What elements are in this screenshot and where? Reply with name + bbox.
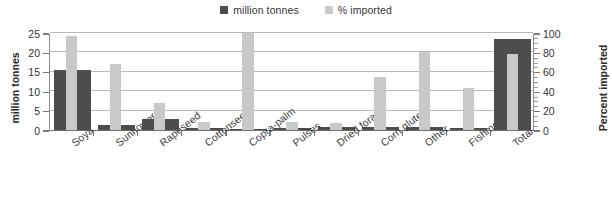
y-axis-left-tick-label: 10 — [14, 87, 40, 98]
legend-entry-percent-imported: % imported — [325, 4, 392, 16]
y-axis-left-tick-label: 5 — [14, 106, 40, 117]
chart-legend: million tonnes % imported — [0, 4, 612, 16]
bar-percent-imported — [419, 52, 430, 130]
y-axis-right-minor-tick — [534, 116, 538, 117]
bar-group — [447, 34, 491, 130]
y-axis-right-minor-tick — [534, 126, 538, 127]
bar-percent-imported — [286, 122, 297, 130]
y-axis-right-minor-tick — [534, 38, 538, 39]
y-axis-right-tick-label: 80 — [543, 48, 569, 59]
y-axis-right-tick-label: 100 — [543, 29, 569, 40]
x-axis-tick — [402, 131, 403, 136]
bar-percent-imported — [330, 123, 341, 130]
legend-label-million-tonnes: million tonnes — [233, 4, 299, 16]
x-axis-tick — [446, 131, 447, 136]
y-axis-right-minor-tick — [534, 101, 538, 102]
y-axis-left-tick — [43, 72, 49, 73]
bar-chart: million tonnes % imported million tonnes… — [0, 0, 612, 201]
bar-percent-imported — [198, 122, 209, 130]
y-axis-left-tick — [43, 92, 49, 93]
bar-percent-imported — [154, 103, 165, 130]
bar-percent-imported — [242, 33, 253, 130]
y-axis-left-tick-label: 0 — [14, 126, 40, 137]
x-axis-tick — [137, 131, 138, 136]
x-axis-tick — [490, 131, 491, 136]
y-axis-left-tick — [43, 33, 49, 34]
bar-group — [94, 34, 138, 130]
y-axis-right-minor-tick — [534, 87, 538, 88]
bar-group — [315, 34, 359, 130]
y-axis-right-minor-tick — [534, 48, 538, 49]
y-axis-right-tick-label: 0 — [543, 126, 569, 137]
y-axis-right-minor-tick — [534, 43, 538, 44]
bar-percent-imported — [463, 88, 474, 130]
x-axis-tick — [358, 131, 359, 136]
y-axis-right-minor-tick — [534, 97, 538, 98]
y-axis-right-tick — [534, 130, 540, 131]
y-axis-right-tick — [534, 111, 540, 112]
y-axis-left-tick-label: 15 — [14, 67, 40, 78]
legend-label-percent-imported: % imported — [338, 4, 392, 16]
y-axis-right-tick-label: 60 — [543, 67, 569, 78]
y-axis-right-tick — [534, 92, 540, 93]
y-axis-right-tick-label: 40 — [543, 87, 569, 98]
bar-group — [50, 34, 94, 130]
legend-entry-million-tonnes: million tonnes — [220, 4, 299, 16]
y-axis-right-minor-tick — [534, 82, 538, 83]
y-axis-right-minor-tick — [534, 106, 538, 107]
y-axis-left-tick — [43, 130, 49, 131]
x-axis-tick — [269, 131, 270, 136]
y-axis-right-tick — [534, 53, 540, 54]
x-axis-tick — [93, 131, 94, 136]
bar-percent-imported — [66, 36, 77, 130]
y-axis-left-tick-label: 20 — [14, 48, 40, 59]
y-axis-right-tick — [534, 72, 540, 73]
x-axis-tick — [225, 131, 226, 136]
bar-percent-imported — [507, 54, 518, 130]
legend-swatch-percent-imported — [325, 6, 333, 14]
y-axis-right-tick-label: 20 — [543, 106, 569, 117]
y-axis-left-tick — [43, 53, 49, 54]
bar-percent-imported — [110, 64, 121, 130]
y-axis-right-minor-tick — [534, 67, 538, 68]
y-axis-right-minor-tick — [534, 63, 538, 64]
y-axis-left-tick-label: 25 — [14, 29, 40, 40]
y-axis-right-minor-tick — [534, 58, 538, 59]
bar-percent-imported — [374, 77, 385, 130]
x-axis-tick — [181, 131, 182, 136]
legend-swatch-million-tonnes — [220, 6, 228, 14]
y-axis-left-tick — [43, 111, 49, 112]
y-axis-right-title: Percent imported — [597, 33, 609, 143]
y-axis-right-tick — [534, 33, 540, 34]
gridline — [50, 32, 533, 33]
y-axis-right-minor-tick — [534, 121, 538, 122]
x-axis-tick — [314, 131, 315, 136]
bar-group — [491, 34, 535, 130]
y-axis-right-minor-tick — [534, 77, 538, 78]
